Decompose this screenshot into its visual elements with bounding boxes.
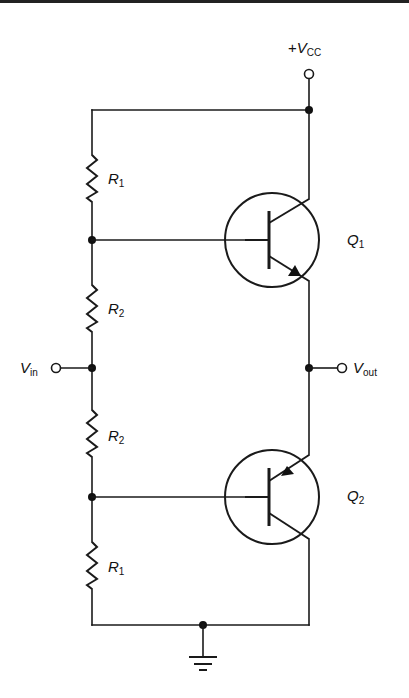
vcc-prefix: + bbox=[288, 39, 297, 56]
vin-subscript: in bbox=[30, 367, 38, 378]
vout-label: Vout bbox=[353, 360, 377, 378]
circuit-schematic bbox=[0, 0, 409, 698]
vcc-label: +VCC bbox=[288, 40, 321, 58]
transistor-q2-pnp bbox=[92, 368, 319, 625]
q2-label: Q2 bbox=[347, 488, 364, 506]
r1-symbol: R bbox=[108, 170, 119, 187]
r1-symbol: R bbox=[108, 558, 119, 575]
r2-symbol: R bbox=[108, 300, 119, 317]
r2-symbol: R bbox=[108, 427, 119, 444]
q2-subscript: 2 bbox=[359, 495, 365, 506]
r2-subscript: 2 bbox=[119, 308, 125, 319]
vin-terminal bbox=[52, 364, 61, 373]
resistor-r2-upper bbox=[87, 285, 97, 332]
r1-subscript: 1 bbox=[119, 178, 125, 189]
emitter-arrow-icon bbox=[288, 265, 301, 276]
vin-label: Vin bbox=[20, 360, 38, 378]
vcc-terminal bbox=[305, 70, 314, 79]
r2-subscript: 2 bbox=[119, 435, 125, 446]
ground-icon bbox=[189, 625, 217, 670]
q1-subscript: 1 bbox=[359, 239, 365, 250]
resistor-r1-bottom bbox=[87, 542, 97, 589]
q1-label: Q1 bbox=[347, 232, 364, 250]
vcc-subscript: CC bbox=[307, 47, 321, 58]
q1-symbol: Q bbox=[347, 231, 359, 248]
r2-upper-label: R2 bbox=[108, 301, 124, 319]
transistor-q1-npn bbox=[92, 110, 319, 368]
vout-subscript: out bbox=[363, 367, 377, 378]
r2-lower-label: R2 bbox=[108, 428, 124, 446]
resistor-r2-lower bbox=[87, 410, 97, 457]
q2-symbol: Q bbox=[347, 487, 359, 504]
r1-top-label: R1 bbox=[108, 171, 124, 189]
vcc-symbol: V bbox=[297, 39, 307, 56]
r1-bottom-label: R1 bbox=[108, 559, 124, 577]
r1-subscript: 1 bbox=[119, 566, 125, 577]
vout-symbol: V bbox=[353, 359, 363, 376]
vout-terminal bbox=[338, 364, 347, 373]
vin-symbol: V bbox=[20, 359, 30, 376]
resistor-r1-top bbox=[87, 155, 97, 202]
